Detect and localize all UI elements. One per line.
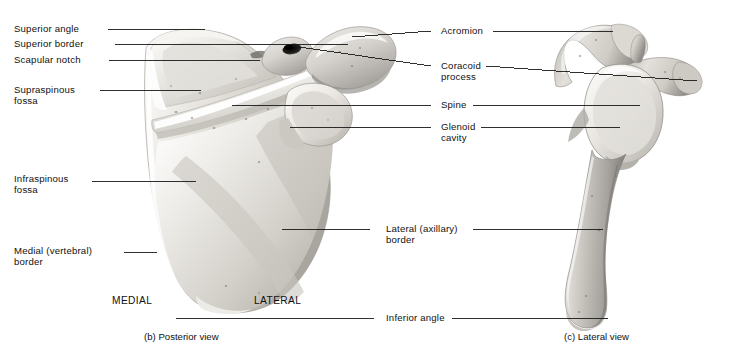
label-superior-angle-line1: Superior angle bbox=[14, 23, 79, 34]
label-spine-line1: Spine bbox=[441, 99, 467, 110]
label-inferior-angle: Inferior angle bbox=[386, 312, 445, 323]
label-superior-angle: Superior angle bbox=[14, 23, 79, 34]
label-lateral-border-line1: Lateral (axillary) bbox=[386, 223, 458, 234]
label-spine: Spine bbox=[441, 99, 467, 110]
label-acromion: Acromion bbox=[441, 25, 483, 36]
label-lateral-border: Lateral (axillary)border bbox=[386, 223, 458, 246]
label-coracoid-process: Coracoidprocess bbox=[441, 60, 481, 83]
label-lateral-border-line2: border bbox=[386, 234, 458, 245]
label-medial-border-line1: Medial (vertebral) bbox=[14, 245, 92, 256]
posterior-scapula-bone bbox=[145, 27, 397, 314]
label-glenoid-cavity-line1: Glenoid bbox=[441, 121, 475, 132]
label-superior-border: Superior border bbox=[14, 38, 84, 49]
lateral-scapula-bone bbox=[555, 24, 703, 331]
label-supraspinous-fossa-line1: Supraspinous bbox=[14, 84, 75, 95]
anatomy-figure: Superior angleSuperior borderScapular no… bbox=[0, 0, 730, 362]
label-infraspinous-fossa-line1: Infraspinous bbox=[14, 173, 69, 184]
caption-posterior-view: (b) Posterior view bbox=[144, 331, 219, 342]
label-glenoid-cavity-line2: cavity bbox=[441, 132, 475, 143]
orientation-medial: MEDIAL bbox=[112, 295, 152, 307]
scapular-neck-lateral bbox=[568, 108, 589, 142]
orientation-lateral: LATERAL bbox=[254, 295, 301, 307]
scapula-illustration bbox=[0, 0, 730, 362]
label-supraspinous-fossa: Supraspinousfossa bbox=[14, 84, 75, 107]
label-infraspinous-fossa-line2: fossa bbox=[14, 184, 69, 195]
label-superior-border-line1: Superior border bbox=[14, 38, 84, 49]
label-medial-border-line2: border bbox=[14, 256, 92, 267]
label-inferior-angle-line1: Inferior angle bbox=[386, 312, 445, 323]
label-acromion-line1: Acromion bbox=[441, 25, 483, 36]
lateral-axillary-border bbox=[565, 150, 626, 328]
label-medial-border: Medial (vertebral)border bbox=[14, 245, 92, 268]
label-coracoid-process-line1: Coracoid bbox=[441, 60, 481, 71]
label-scapular-notch: Scapular notch bbox=[14, 54, 81, 65]
coracoid-process-posterior bbox=[262, 37, 314, 75]
label-scapular-notch-line1: Scapular notch bbox=[14, 54, 81, 65]
label-glenoid-cavity: Glenoidcavity bbox=[441, 121, 475, 144]
label-supraspinous-fossa-line2: fossa bbox=[14, 95, 75, 106]
caption-lateral-view: (c) Lateral view bbox=[564, 331, 629, 342]
label-coracoid-process-line2: process bbox=[441, 71, 481, 82]
label-infraspinous-fossa: Infraspinousfossa bbox=[14, 173, 69, 196]
